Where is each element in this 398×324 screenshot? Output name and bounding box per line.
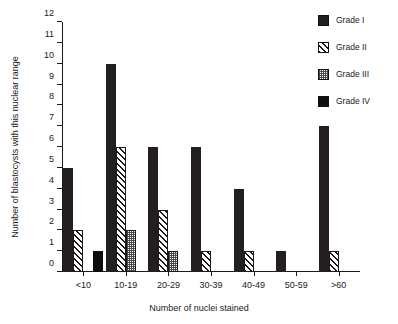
y-axis-tick bbox=[57, 104, 62, 105]
x-axis-tick-label: 50-59 bbox=[285, 281, 308, 290]
x-axis-tick bbox=[339, 272, 340, 276]
chart-plot-area: 0123456789101112 <1010-1920-2930-3940-49… bbox=[62, 22, 360, 272]
y-axis-tick bbox=[57, 167, 62, 168]
y-axis-tick bbox=[57, 125, 62, 126]
y-axis-tick-label: 9 bbox=[49, 71, 54, 80]
x-axis-tick bbox=[126, 272, 127, 276]
bar bbox=[126, 230, 136, 272]
bar bbox=[276, 251, 286, 272]
y-axis-tick bbox=[57, 84, 62, 85]
bar bbox=[63, 168, 73, 272]
bar bbox=[191, 147, 201, 272]
x-axis-tick-label: 20-29 bbox=[157, 281, 180, 290]
x-axis-tick bbox=[168, 272, 169, 276]
y-axis-tick bbox=[57, 21, 62, 22]
bar bbox=[93, 251, 103, 272]
x-axis-tick bbox=[296, 272, 297, 276]
y-axis-tick-label: 10 bbox=[44, 50, 54, 59]
bar bbox=[244, 251, 254, 272]
y-axis-tick-label: 4 bbox=[49, 175, 54, 184]
bar bbox=[158, 210, 168, 273]
x-axis-tick bbox=[83, 272, 84, 276]
bar bbox=[319, 126, 329, 272]
x-axis-tick bbox=[254, 272, 255, 276]
bar bbox=[329, 251, 339, 272]
x-axis-tick-label: >60 bbox=[331, 281, 346, 290]
y-axis-tick bbox=[57, 250, 62, 251]
x-axis-tick bbox=[211, 272, 212, 276]
y-axis-tick-label: 5 bbox=[49, 154, 54, 163]
bar bbox=[116, 147, 126, 272]
x-axis-title: Number of nuclei stained bbox=[0, 304, 398, 313]
y-axis-title: Number of blastocysts with this nuclear … bbox=[8, 22, 22, 272]
x-axis-tick-label: 40-49 bbox=[242, 281, 265, 290]
y-axis-tick bbox=[57, 146, 62, 147]
y-axis-tick bbox=[57, 271, 62, 272]
y-axis-tick bbox=[57, 229, 62, 230]
bar bbox=[148, 147, 158, 272]
bar bbox=[201, 251, 211, 272]
x-axis-tick-label: 10-19 bbox=[114, 281, 137, 290]
y-axis-tick-label: 11 bbox=[45, 29, 54, 38]
y-axis-tick-label: 3 bbox=[49, 196, 54, 205]
bar bbox=[234, 189, 244, 272]
bar bbox=[168, 251, 178, 272]
y-axis-tick bbox=[57, 188, 62, 189]
y-axis-tick-label: 1 bbox=[49, 238, 54, 247]
x-axis-tick-label: 30-39 bbox=[199, 281, 222, 290]
y-axis-tick-label: 12 bbox=[44, 9, 54, 18]
y-axis-tick-label: 2 bbox=[49, 217, 54, 226]
y-axis-tick-label: 6 bbox=[49, 134, 54, 143]
y-axis-tick bbox=[57, 63, 62, 64]
y-axis-tick bbox=[57, 42, 62, 43]
bar bbox=[106, 64, 116, 272]
y-axis-tick-label: 8 bbox=[49, 92, 54, 101]
y-axis-tick-label: 7 bbox=[49, 113, 54, 122]
y-axis-tick-label: 0 bbox=[49, 259, 54, 268]
y-axis-tick bbox=[57, 209, 62, 210]
x-axis-tick-label: <10 bbox=[76, 281, 91, 290]
bar bbox=[73, 230, 83, 272]
